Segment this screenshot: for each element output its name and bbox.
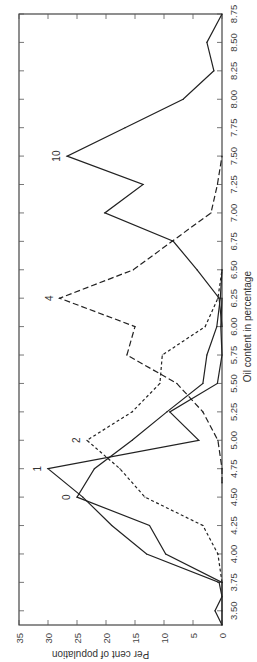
y-tick-label: 0: [217, 633, 228, 638]
x-tick-label: 7.25: [228, 175, 239, 194]
data-point-2: [221, 582, 222, 583]
x-tick-label: 6.00: [228, 317, 239, 336]
y-tick-label: 10: [159, 633, 170, 644]
data-point-1: [221, 596, 222, 597]
x-tick-label: 4.00: [228, 545, 239, 564]
x-tick-label: 7.75: [228, 118, 239, 136]
oil-content-chart: 3.503.754.004.254.504.755.005.255.505.75…: [0, 0, 257, 662]
data-point-0: [149, 525, 150, 526]
x-tick-label: 8.50: [228, 33, 239, 52]
x-tick-label: 8.25: [228, 62, 239, 81]
x-tick-label: 4.50: [228, 488, 239, 507]
y-tick-label: 30: [43, 633, 54, 644]
data-point-1: [146, 553, 147, 554]
data-point-2: [217, 553, 218, 554]
data-point-0: [221, 610, 222, 611]
x-tick-label: 5.75: [228, 346, 239, 365]
data-point-4: [134, 326, 135, 327]
x-tick-label: 6.75: [228, 232, 239, 251]
data-point-4: [126, 354, 127, 355]
x-tick-label: 3.50: [228, 602, 239, 621]
data-point-4: [221, 156, 222, 157]
y-axis-title: Per cent of population: [52, 649, 149, 660]
data-point-1: [169, 411, 170, 412]
series-labels: 012410: [32, 150, 82, 500]
data-point-0: [216, 326, 217, 327]
series-label-2: 2: [71, 437, 82, 443]
data-point-10: [125, 127, 126, 128]
x-tick-label: 5.50: [228, 374, 239, 393]
data-point-1: [220, 326, 221, 327]
data-point-0: [76, 497, 77, 498]
data-point-0: [202, 383, 203, 384]
data-point-1: [47, 468, 48, 469]
y-tick-label: 20: [101, 633, 112, 644]
x-tick-label: 8.00: [228, 90, 239, 109]
data-point-0: [206, 354, 207, 355]
x-tick-label: 4.25: [228, 516, 239, 535]
data-point-10: [104, 212, 105, 213]
y-tick-label: 25: [72, 633, 83, 644]
data-point-4: [176, 383, 177, 384]
x-tick-label: 7.00: [228, 204, 239, 223]
series-lines: [47, 13, 222, 625]
data-point-1: [198, 440, 199, 441]
data-point-4: [221, 468, 222, 469]
data-point-2: [119, 468, 120, 469]
data-point-10: [206, 42, 207, 43]
series-line-0: [77, 270, 222, 625]
data-point-4: [133, 269, 134, 270]
data-point-2: [162, 354, 163, 355]
data-point-1: [221, 298, 222, 299]
series-line-10: [67, 14, 222, 327]
y-tick-label: 5: [188, 633, 199, 638]
data-point-1: [221, 354, 222, 355]
x-tick-label: 6.25: [228, 289, 239, 308]
x-tick-label: 6.50: [228, 261, 239, 280]
x-tick-label: 5.25: [228, 403, 239, 422]
data-point-10: [221, 13, 222, 14]
x-tick-label: 4.75: [228, 459, 239, 478]
data-point-1: [214, 610, 215, 611]
x-tick-label: 8.75: [228, 5, 239, 24]
data-point-0: [132, 440, 133, 441]
data-point-0: [220, 298, 221, 299]
data-point-2: [202, 525, 203, 526]
data-point-10: [183, 99, 184, 100]
data-point-1: [219, 582, 220, 583]
data-point-10: [219, 298, 220, 299]
x-tick-label: 5.00: [228, 431, 239, 450]
data-point-2: [159, 383, 160, 384]
data-point-4: [217, 440, 218, 441]
y-tick-label: 35: [14, 633, 25, 644]
data-point-0: [166, 411, 167, 412]
data-point-10: [221, 326, 222, 327]
series-label-1: 1: [32, 465, 43, 471]
data-point-1: [111, 525, 112, 526]
data-point-4: [59, 298, 60, 299]
series-label-4: 4: [44, 295, 55, 301]
data-point-10: [213, 70, 214, 71]
data-point-0: [94, 468, 95, 469]
data-point-1: [217, 383, 218, 384]
data-point-1: [221, 624, 222, 625]
series-line-1: [48, 298, 222, 625]
x-tick-label: 3.75: [228, 573, 239, 592]
data-point-10: [67, 156, 68, 157]
x-axis-title: Oil content in percentage: [242, 271, 253, 383]
series-label-0: 0: [61, 494, 72, 500]
data-point-2: [132, 411, 133, 412]
data-point-10: [197, 269, 198, 270]
data-point-1: [82, 497, 83, 498]
data-point-2: [205, 326, 206, 327]
y-tick-label: 15: [130, 633, 141, 644]
series-label-10: 10: [51, 150, 62, 162]
data-point-4: [210, 212, 211, 213]
data-point-2: [144, 497, 145, 498]
data-point-10: [173, 241, 174, 242]
data-point-2: [86, 440, 87, 441]
data-point-4: [221, 482, 222, 483]
data-point-0: [165, 553, 166, 554]
data-point-4: [217, 184, 218, 185]
ticks: 3.503.754.004.254.504.755.005.255.505.75…: [14, 5, 240, 644]
